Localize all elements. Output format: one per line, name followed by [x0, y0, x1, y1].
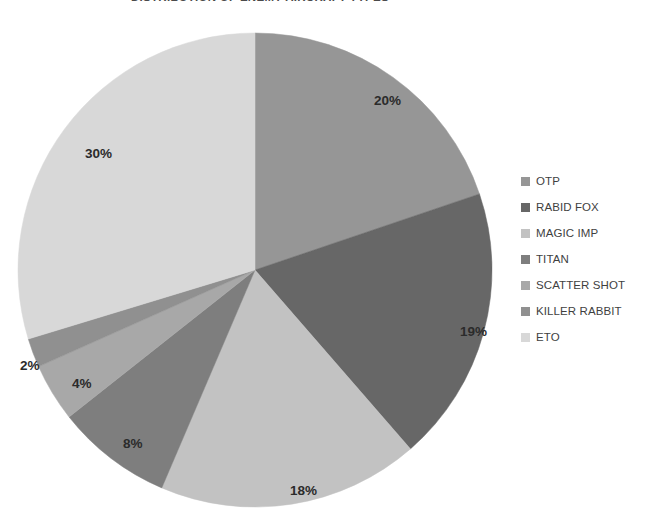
- legend-swatch-icon: [521, 255, 530, 264]
- pie-slice-data-label: 18%: [290, 483, 317, 498]
- legend-swatch-icon: [521, 177, 530, 186]
- legend-item[interactable]: KILLER RABBIT: [521, 298, 649, 324]
- chart-legend: OTPRABID FOXMAGIC IMPTITANSCATTER SHOTKI…: [521, 168, 649, 350]
- pie-chart-figure: DISTRIBUTION OF ENEMY AIRCRAFT TYPES 20%…: [0, 0, 651, 518]
- pie-slice-data-label: 19%: [460, 324, 487, 339]
- legend-swatch-icon: [521, 281, 530, 290]
- pie-slice-data-label: 2%: [20, 358, 40, 373]
- legend-item[interactable]: SCATTER SHOT: [521, 272, 649, 298]
- legend-item[interactable]: ETO: [521, 324, 649, 350]
- legend-item-label: RABID FOX: [536, 201, 599, 213]
- legend-item-label: MAGIC IMP: [536, 227, 598, 239]
- legend-swatch-icon: [521, 203, 530, 212]
- pie-slice-data-label: 8%: [123, 436, 143, 451]
- pie-slice-data-label: 20%: [374, 93, 401, 108]
- legend-item-label: ETO: [536, 331, 560, 343]
- legend-swatch-icon: [521, 333, 530, 342]
- legend-swatch-icon: [521, 229, 530, 238]
- legend-item-label: SCATTER SHOT: [536, 279, 625, 291]
- pie-slice-data-label: 30%: [85, 146, 112, 161]
- pie-slice-data-label: 4%: [72, 376, 92, 391]
- pie-slice-group: [18, 33, 492, 507]
- legend-item[interactable]: TITAN: [521, 246, 649, 272]
- legend-swatch-icon: [521, 307, 530, 316]
- legend-item[interactable]: MAGIC IMP: [521, 220, 649, 246]
- legend-item[interactable]: RABID FOX: [521, 194, 649, 220]
- legend-item-label: TITAN: [536, 253, 569, 265]
- legend-item-label: OTP: [536, 175, 560, 187]
- legend-item[interactable]: OTP: [521, 168, 649, 194]
- legend-item-label: KILLER RABBIT: [536, 305, 622, 317]
